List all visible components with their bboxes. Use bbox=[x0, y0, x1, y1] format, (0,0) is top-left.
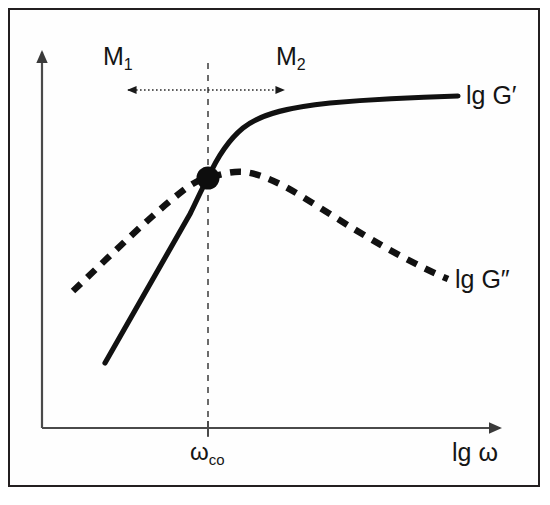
label-omega-crossover-subscript: co bbox=[209, 451, 225, 468]
label-region-m1-subscript: 1 bbox=[124, 56, 133, 73]
label-region-m1: M1 bbox=[103, 44, 133, 69]
label-omega-crossover: ωco bbox=[190, 440, 225, 464]
curve-storage-modulus bbox=[105, 96, 458, 363]
label-region-m2: M2 bbox=[276, 44, 306, 69]
figure-root: M1 M2 lg G′ lg G″ ωco lg ω bbox=[0, 0, 550, 505]
label-storage-modulus: lg G′ bbox=[466, 83, 517, 108]
label-loss-modulus: lg G″ bbox=[455, 267, 510, 292]
curve-loss-modulus bbox=[73, 172, 448, 291]
label-omega-crossover-symbol: ω bbox=[190, 438, 209, 465]
label-x-axis: lg ω bbox=[452, 440, 498, 465]
plot-canvas bbox=[0, 0, 550, 505]
label-region-m1-text: M bbox=[103, 42, 124, 70]
label-region-m2-text: M bbox=[276, 42, 297, 70]
label-region-m2-subscript: 2 bbox=[297, 56, 306, 73]
crossover-point-marker bbox=[197, 167, 220, 190]
